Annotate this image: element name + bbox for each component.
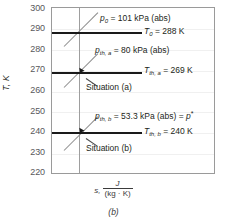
annotation-pth-b-text: = 53.3 kPa (abs) = bbox=[111, 111, 186, 121]
annotation-p0-text: = 101 kPa (abs) bbox=[108, 13, 171, 23]
annotation-t0-subscript: 0 bbox=[149, 31, 152, 37]
x-axis-title-variable: s, bbox=[94, 186, 100, 195]
annotation-t0-text: = 288 K bbox=[153, 26, 185, 36]
y-tick-label-230: 230 bbox=[21, 148, 45, 157]
gridline-230 bbox=[52, 154, 214, 155]
annotation-p0: p0 = 101 kPa (abs) bbox=[100, 14, 171, 23]
annotation-pth-a: pth, a = 80 kPa (abs) bbox=[95, 46, 169, 55]
x-axis-title-denominator: (kg · K) bbox=[103, 189, 133, 199]
annotation-tth-a: Tth, a = 269 K bbox=[144, 66, 193, 75]
isotherm-line-t0 bbox=[52, 32, 142, 34]
x-axis-title-fraction: J(kg · K) bbox=[103, 179, 133, 199]
annotation-situation-b: Situation (b) bbox=[86, 144, 132, 153]
x-axis-title: s,J(kg · K) bbox=[0, 180, 227, 200]
annotation-t0: T0 = 288 K bbox=[144, 27, 184, 36]
annotation-pth-a-text: = 80 kPa (abs) bbox=[111, 45, 169, 55]
ts-diagram-figure: T, K 300 290 280 270 260 250 240 230 220 bbox=[0, 0, 227, 224]
annotation-pth-b-subscript: th, b bbox=[100, 116, 112, 122]
y-tick-label-250: 250 bbox=[21, 107, 45, 116]
y-tick-label-280: 280 bbox=[21, 45, 45, 54]
annotation-situation-a: Situation (a) bbox=[86, 83, 132, 92]
gridline-260 bbox=[52, 92, 214, 93]
y-tick-label-290: 290 bbox=[21, 24, 45, 33]
y-tick-label-300: 300 bbox=[21, 4, 45, 13]
annotation-pth-a-subscript: th, a bbox=[100, 50, 112, 56]
annotation-tth-b: Tth, b = 240 K bbox=[144, 127, 193, 136]
plot-area bbox=[51, 7, 215, 174]
annotation-p0-subscript: 0 bbox=[105, 18, 108, 24]
annotation-pth-b: pth, b = 53.3 kPa (abs) = p* bbox=[95, 112, 194, 121]
isotherm-line-tth-b bbox=[52, 132, 142, 134]
annotation-pth-b-tail-superscript: * bbox=[191, 110, 194, 117]
y-tick-label-220: 220 bbox=[21, 168, 45, 177]
annotation-tth-b-subscript: th, b bbox=[149, 131, 161, 137]
annotation-tth-b-text: = 240 K bbox=[161, 126, 193, 136]
x-axis-title-numerator: J bbox=[103, 179, 133, 189]
y-axis-title-variable: T bbox=[1, 86, 11, 91]
annotation-tth-a-subscript: th, a bbox=[149, 70, 161, 76]
y-tick-label-240: 240 bbox=[21, 127, 45, 136]
y-axis-title: T, K bbox=[1, 61, 11, 105]
annotation-tth-a-text: = 269 K bbox=[161, 65, 193, 75]
y-tick-label-270: 270 bbox=[21, 65, 45, 74]
y-axis-title-unit: , K bbox=[1, 75, 11, 86]
gridline-290 bbox=[52, 29, 214, 30]
isotherm-line-tth-a bbox=[52, 72, 142, 74]
figure-caption: (b) bbox=[0, 207, 227, 217]
y-tick-label-260: 260 bbox=[21, 86, 45, 95]
